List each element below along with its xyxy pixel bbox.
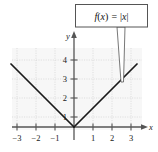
- x-tick-label--3: −3: [12, 133, 21, 143]
- y-tick-label-2: 2: [63, 93, 67, 103]
- y-tick-label-3: 3: [63, 74, 67, 84]
- x-tick-label--1: −1: [50, 133, 59, 143]
- y-axis-label: y: [65, 31, 70, 41]
- x-axis-label: x: [148, 122, 153, 132]
- callout-close-paren: ): [105, 11, 108, 23]
- callout-equals: =: [111, 11, 117, 22]
- x-tick-label--2: −2: [31, 133, 40, 143]
- absolute-value-graph: −3 −2 −1 1 2 3 4 3 2 1 x y f(x)=|x|: [0, 0, 158, 152]
- callout-bar-right: |: [127, 11, 129, 22]
- x-tick-label-1: 1: [91, 133, 95, 143]
- callout-label: f(x)=|x|: [94, 11, 128, 23]
- x-tick-label-2: 2: [110, 133, 114, 143]
- figure-container: −3 −2 −1 1 2 3 4 3 2 1 x y f(x)=|x|: [0, 0, 158, 152]
- x-tick-label-3: 3: [129, 133, 133, 143]
